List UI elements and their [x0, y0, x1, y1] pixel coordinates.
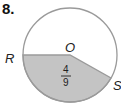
- point-label-r: R: [5, 51, 14, 66]
- fraction-denominator: 9: [63, 77, 69, 88]
- circle-diagram: O R S 4 9: [0, 0, 121, 104]
- fraction-numerator: 4: [63, 64, 69, 75]
- center-label-o: O: [65, 40, 75, 55]
- point-label-s: S: [113, 78, 121, 93]
